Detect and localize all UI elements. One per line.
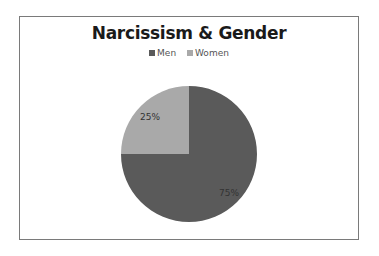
pie-label-men: 75% — [219, 188, 239, 198]
pie-chart: 25% 75% — [0, 0, 379, 256]
pie-label-women: 25% — [140, 112, 160, 122]
